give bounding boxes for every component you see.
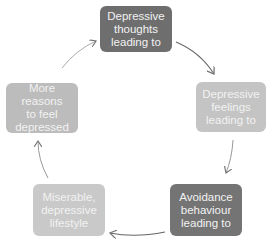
node-text-line: leading to [107,36,165,49]
node-text-line: leading to [202,114,260,127]
node-text-line: to feel [10,108,74,121]
node-text-line: depressed [10,121,74,134]
arrow-reasons-to-thoughts [62,41,96,68]
node-text-line: depressive [41,204,97,217]
arrow-feelings-to-avoidance [226,140,233,173]
arrow-lifestyle-to-reasons [38,141,48,178]
node-text-line: behaviour [179,204,233,217]
node-text-line: Depressive [202,88,260,101]
node-text-line: lifestyle [41,217,97,230]
node-avoidance-behaviour: Avoidance behaviour leading to [170,184,242,236]
arrow-avoidance-to-lifestyle [110,232,165,235]
node-text-line: feelings [202,101,260,114]
node-more-reasons: More reasons to feel depressed [6,83,78,133]
node-text-line: leading to [179,217,233,230]
node-depressive-thoughts: Depressive thoughts leading to [100,6,172,52]
node-text-line: Miserable, [41,191,97,204]
node-depressive-feelings: Depressive feelings leading to [196,82,266,132]
arrow-thoughts-to-feelings [176,42,214,74]
node-miserable-lifestyle: Miserable, depressive lifestyle [33,184,105,236]
node-text-line: Avoidance [179,191,233,204]
node-text-line: Depressive [107,10,165,23]
node-text-line: thoughts [107,23,165,36]
node-text-line: More reasons [10,82,74,108]
